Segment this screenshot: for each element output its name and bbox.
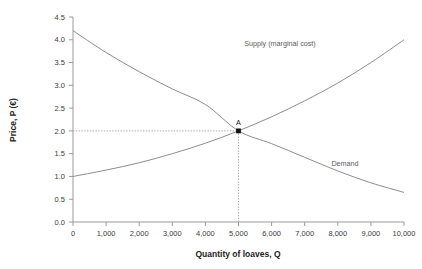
equilibrium-point-label: A bbox=[236, 118, 241, 127]
y-tick-label: 1.0 bbox=[55, 172, 65, 181]
y-tick-label: 3.0 bbox=[55, 81, 65, 90]
equilibrium-point-marker bbox=[236, 128, 241, 133]
x-tick-label: 4,000 bbox=[196, 229, 215, 238]
x-tick-label: 5,000 bbox=[229, 229, 248, 238]
chart-canvas: 0.00.51.01.52.02.53.03.54.04.5 01,0002,0… bbox=[0, 0, 422, 269]
y-axis-tick-labels: 0.00.51.01.52.02.53.03.54.04.5 bbox=[55, 13, 65, 227]
y-tick-label: 0.5 bbox=[55, 195, 65, 204]
x-tick-label: 7,000 bbox=[295, 229, 314, 238]
y-tick-label: 2.5 bbox=[55, 104, 65, 113]
supply-curve bbox=[73, 40, 404, 177]
y-tick-label: 2.0 bbox=[55, 127, 65, 136]
x-tick-label: 3,000 bbox=[163, 229, 182, 238]
supply-demand-chart: 0.00.51.01.52.02.53.03.54.04.5 01,0002,0… bbox=[0, 0, 422, 269]
x-tick-label: 10,000 bbox=[393, 229, 416, 238]
y-tick-label: 4.0 bbox=[55, 35, 65, 44]
x-tick-label: 8,000 bbox=[328, 229, 347, 238]
demand-series-label: Demand bbox=[331, 159, 358, 168]
y-tick-label: 0.0 bbox=[55, 218, 65, 227]
y-axis-title: Price, P (€) bbox=[8, 98, 18, 142]
y-tick-label: 4.5 bbox=[55, 13, 65, 22]
x-tick-label: 0 bbox=[71, 229, 75, 238]
supply-series-label: Supply (marginal cost) bbox=[244, 39, 316, 48]
x-axis-tick-labels: 01,0002,0003,0004,0005,0006,0007,0008,00… bbox=[71, 229, 416, 238]
x-axis-title: Quantity of loaves, Q bbox=[195, 249, 280, 259]
y-tick-label: 1.5 bbox=[55, 149, 65, 158]
x-tick-label: 1,000 bbox=[97, 229, 116, 238]
x-tick-label: 6,000 bbox=[262, 229, 281, 238]
x-tick-label: 9,000 bbox=[362, 229, 381, 238]
y-axis-tick-marks bbox=[69, 17, 73, 222]
x-axis-tick-marks bbox=[73, 222, 404, 226]
x-tick-label: 2,000 bbox=[130, 229, 149, 238]
y-tick-label: 3.5 bbox=[55, 58, 65, 67]
